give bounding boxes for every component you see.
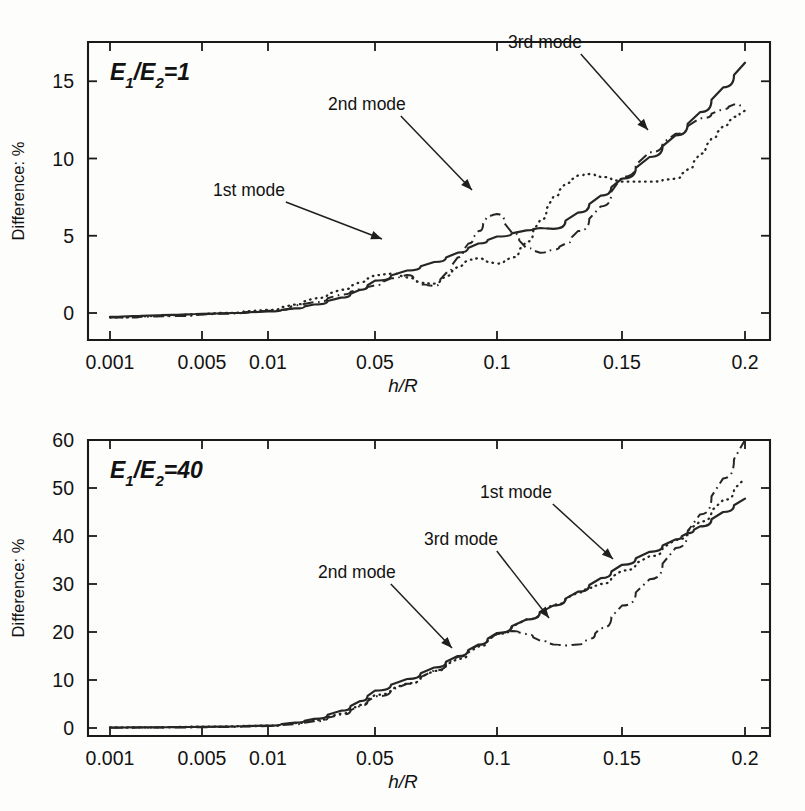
x-tick-label: 0.005	[178, 747, 227, 769]
annotation-label: 2nd mode	[318, 562, 396, 582]
plot-area-bottom: 0.0010.0050.010.050.10.150.2h/R010203040…	[0, 406, 805, 811]
series-solid	[110, 63, 745, 317]
axis-frame	[88, 440, 770, 736]
x-axis-title: h/R	[388, 771, 418, 792]
series-dashdot	[110, 104, 745, 317]
annotation-leader	[401, 116, 472, 190]
panel-title: E1/E2=1	[110, 59, 190, 91]
annotation-label: 3rd mode	[508, 32, 582, 52]
x-tick-label: 0.15	[603, 351, 641, 373]
y-tick-label: 40	[52, 525, 74, 547]
annotation-label: 3rd mode	[424, 529, 498, 549]
annotation-leader	[553, 504, 613, 559]
annotation-label: 1st mode	[480, 482, 552, 502]
series-dotted	[110, 478, 745, 727]
x-tick-label: 0.001	[86, 351, 135, 373]
annotation-arrowhead	[370, 231, 382, 239]
y-tick-label: 10	[52, 669, 74, 691]
x-axis-title: h/R	[388, 375, 418, 396]
y-axis-title: Difference: %	[9, 538, 27, 637]
annotation-label: 2nd mode	[328, 94, 406, 114]
x-tick-label: 0.2	[731, 351, 758, 373]
y-tick-label: 20	[52, 621, 74, 643]
x-tick-label: 0.01	[249, 351, 287, 373]
chart-panel-bottom: 0.0010.0050.010.050.10.150.2h/R010203040…	[0, 406, 805, 811]
x-tick-label: 0.05	[356, 747, 394, 769]
x-tick-label: 0.15	[603, 747, 641, 769]
y-tick-label: 30	[52, 573, 74, 595]
x-tick-label: 0.001	[86, 747, 135, 769]
y-tick-label: 60	[52, 429, 74, 451]
series-dashdot	[110, 440, 745, 728]
annotation-leader	[286, 202, 382, 239]
panel-title: E1/E2=40	[110, 457, 203, 489]
x-tick-label: 0.005	[178, 351, 227, 373]
annotation-label: 1st mode	[213, 180, 285, 200]
plot-area-top: 0.0010.0050.010.050.10.150.2h/R051015Dif…	[0, 0, 805, 406]
y-tick-label: 50	[52, 477, 74, 499]
x-tick-label: 0.1	[483, 351, 510, 373]
y-tick-label: 5	[63, 225, 74, 247]
y-tick-label: 0	[63, 302, 74, 324]
annotation-leader	[581, 54, 648, 130]
y-tick-label: 10	[52, 148, 74, 170]
x-tick-label: 0.1	[483, 747, 510, 769]
x-tick-label: 0.05	[356, 351, 394, 373]
series-dotted	[110, 111, 745, 318]
figure-page: 0.0010.0050.010.050.10.150.2h/R051015Dif…	[0, 0, 805, 811]
axis-frame	[88, 42, 770, 340]
y-tick-label: 0	[63, 717, 74, 739]
annotation-leader	[497, 551, 549, 618]
annotation-leader	[391, 584, 452, 648]
y-axis-title: Difference: %	[9, 141, 27, 240]
x-tick-label: 0.2	[731, 747, 758, 769]
y-tick-label: 15	[52, 70, 74, 92]
chart-panel-top: 0.0010.0050.010.050.10.150.2h/R051015Dif…	[0, 0, 805, 406]
x-tick-label: 0.01	[249, 747, 287, 769]
